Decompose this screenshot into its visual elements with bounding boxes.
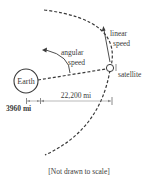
arrowhead-icon: [42, 48, 47, 53]
arrowhead-icon: [102, 26, 106, 31]
arrowhead-icon: [27, 100, 30, 102]
satellite-label: satellite: [118, 70, 142, 79]
orbit-diagram: Earth satellite linear speed angular spe…: [0, 0, 146, 182]
orbit-distance-label: 22,200 mi: [61, 91, 91, 100]
linear-speed-label: speed: [113, 39, 130, 48]
angular-speed-label: speed: [68, 58, 85, 67]
earth-label: Earth: [17, 77, 34, 86]
caption: [Not drawn to scale]: [48, 167, 109, 176]
linear-speed-label: linear: [110, 29, 128, 38]
arrowhead-icon: [41, 100, 44, 102]
arrowhead-icon: [108, 100, 111, 102]
orbit-path: [44, 10, 112, 155]
angular-speed-label: angular: [61, 48, 84, 57]
earth-radius-label: 3960 mi: [6, 104, 31, 113]
satellite-circle: [106, 64, 113, 71]
radius-line: [38, 69, 106, 80]
arrowhead-icon: [37, 100, 40, 102]
